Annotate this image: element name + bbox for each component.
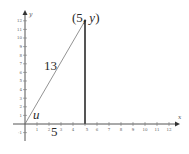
svg-text:10: 10: [17, 35, 23, 40]
svg-text:3: 3: [60, 127, 63, 132]
angle-label: u: [33, 107, 40, 122]
svg-text:3: 3: [19, 96, 22, 101]
svg-text:5: 5: [86, 127, 89, 132]
svg-text:9: 9: [19, 44, 22, 49]
svg-text:11: 11: [154, 127, 159, 132]
x-axis-label: x: [178, 113, 182, 120]
svg-text:11: 11: [17, 27, 22, 32]
svg-text:4: 4: [72, 127, 75, 132]
svg-text:10: 10: [142, 127, 148, 132]
svg-text:6: 6: [19, 70, 22, 75]
svg-text:9: 9: [132, 127, 135, 132]
y-tick-labels: -1 1 2 3 4 5 6 7 8 9 10 11 12: [17, 18, 23, 135]
hypotenuse-label: 13: [44, 58, 57, 73]
svg-text:4: 4: [19, 87, 22, 92]
svg-text:8: 8: [19, 53, 22, 58]
x-axis-arrow-icon: [175, 122, 180, 127]
svg-text:7: 7: [108, 127, 111, 132]
svg-text:5: 5: [19, 78, 22, 83]
svg-text:1: 1: [36, 127, 39, 132]
svg-text:6: 6: [96, 127, 99, 132]
svg-text:8: 8: [120, 127, 123, 132]
svg-text:12: 12: [17, 18, 23, 23]
triangle-diagram: x y 1 2 3 4 5 6 7 8 9 10 11 12: [0, 0, 189, 154]
svg-text:-1: -1: [18, 130, 22, 135]
y-axis-arrow-icon: [23, 10, 28, 15]
base-label: 5: [51, 124, 58, 139]
point-label: (5, y): [72, 10, 99, 25]
y-axis-label: y: [28, 10, 33, 18]
svg-text:2: 2: [19, 104, 22, 109]
svg-text:1: 1: [19, 113, 22, 118]
svg-text:12: 12: [166, 127, 172, 132]
svg-text:7: 7: [19, 61, 22, 66]
